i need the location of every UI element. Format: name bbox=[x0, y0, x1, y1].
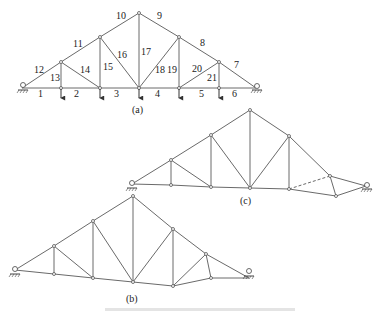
member-label: 1 bbox=[38, 88, 43, 99]
member-b bbox=[173, 254, 206, 286]
member-label: 2 bbox=[74, 88, 79, 99]
member-label: 5 bbox=[199, 88, 204, 99]
truss-a: 1 2 3 4 5 6 7 8 9 10 11 12 13 14 15 16 1… bbox=[17, 10, 262, 116]
member-label: 19 bbox=[167, 64, 177, 75]
member-label: 13 bbox=[50, 72, 60, 83]
truss-b: (b) bbox=[9, 195, 254, 306]
member-label: 15 bbox=[103, 61, 113, 72]
member-label: 9 bbox=[157, 10, 162, 21]
member-18 bbox=[139, 37, 179, 88]
member-label: 8 bbox=[200, 37, 205, 48]
member-label: 12 bbox=[34, 64, 44, 75]
load-arrow-icon bbox=[61, 89, 219, 98]
caption-a: (a) bbox=[132, 104, 143, 116]
member-label: 18 bbox=[155, 64, 165, 75]
member-c bbox=[211, 135, 250, 188]
member-c bbox=[171, 160, 211, 187]
member-label: 21 bbox=[207, 72, 217, 83]
member-b bbox=[93, 221, 133, 282]
truss-figure: 1 2 3 4 5 6 7 8 9 10 11 12 13 14 15 16 1… bbox=[0, 0, 379, 314]
member-label: 20 bbox=[192, 63, 202, 74]
member-label: 6 bbox=[232, 88, 237, 99]
member-label: 16 bbox=[117, 49, 127, 60]
member-dashed-c bbox=[289, 176, 330, 189]
member-label: 17 bbox=[141, 46, 151, 57]
caption-b: (b) bbox=[126, 293, 138, 305]
member-b bbox=[54, 246, 93, 278]
member-b bbox=[206, 254, 211, 278]
member-b bbox=[133, 229, 173, 282]
caption-c: (c) bbox=[240, 195, 251, 207]
member-label: 3 bbox=[114, 88, 119, 99]
member-label: 10 bbox=[116, 10, 126, 21]
member-label: 4 bbox=[155, 88, 160, 99]
truss-c: (c) bbox=[126, 109, 372, 208]
member-c bbox=[250, 136, 289, 188]
member-label: 11 bbox=[73, 38, 83, 49]
member-top-chord-b bbox=[15, 196, 249, 278]
member-c bbox=[289, 189, 336, 196]
member-label: 14 bbox=[80, 64, 90, 75]
member-label: 7 bbox=[234, 59, 239, 70]
member-end-panel-c bbox=[330, 176, 366, 196]
figure-caption-faint bbox=[105, 308, 295, 311]
